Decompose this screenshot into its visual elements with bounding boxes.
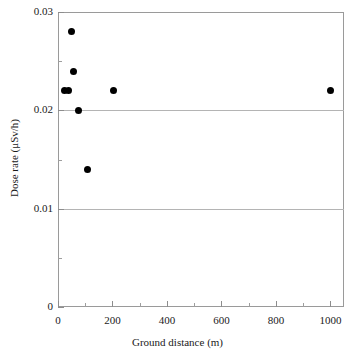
- data-point: [327, 87, 334, 94]
- x-axis-title: Ground distance (m): [0, 336, 355, 348]
- plot-area: [58, 12, 344, 307]
- x-axis-tick: [167, 301, 168, 307]
- x-axis-tick-label: 800: [268, 315, 285, 326]
- x-axis-minor-tick: [194, 303, 195, 307]
- x-axis-tick-label: 400: [159, 315, 176, 326]
- y-axis-minor-tick: [58, 258, 62, 259]
- x-axis-minor-tick: [85, 303, 86, 307]
- y-axis-tick: [58, 12, 64, 13]
- x-axis-minor-tick: [249, 303, 250, 307]
- y-axis-tick-label: 0.02: [34, 104, 53, 115]
- x-axis-tick: [221, 301, 222, 307]
- data-point: [70, 68, 77, 75]
- data-point: [65, 87, 72, 94]
- y-axis-tick: [58, 307, 64, 308]
- y-axis-minor-tick: [58, 61, 62, 62]
- y-axis-minor-tick: [58, 160, 62, 161]
- x-axis-tick-label: 600: [213, 315, 230, 326]
- x-axis-tick: [276, 301, 277, 307]
- x-axis-minor-tick: [303, 303, 304, 307]
- y-axis-tick: [58, 209, 64, 210]
- data-point: [68, 28, 75, 35]
- x-axis-tick-label: 1000: [319, 315, 341, 326]
- data-point: [75, 107, 82, 114]
- chart-figure: 00.010.020.03 02004006008001000 Ground d…: [0, 0, 355, 358]
- y-axis-tick-label: 0: [48, 301, 54, 312]
- y-axis-tick: [58, 110, 64, 111]
- x-axis-tick-labels: 02004006008001000: [0, 315, 355, 331]
- data-point: [110, 87, 117, 94]
- x-axis-tick: [330, 301, 331, 307]
- x-axis-tick-label: 200: [104, 315, 121, 326]
- x-axis-tick: [58, 301, 59, 307]
- data-point: [84, 166, 91, 173]
- x-axis-tick: [112, 301, 113, 307]
- y-axis-tick-label: 0.03: [34, 6, 53, 17]
- y-axis-title: Dose rate (μSv/h): [8, 68, 20, 248]
- gridline: [58, 209, 344, 210]
- x-axis-minor-tick: [140, 303, 141, 307]
- x-axis-tick-label: 0: [55, 315, 61, 326]
- y-axis-tick-label: 0.01: [34, 203, 53, 214]
- gridline: [58, 110, 344, 111]
